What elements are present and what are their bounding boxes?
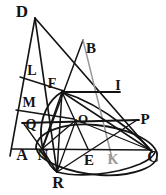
point-label-p: P (140, 112, 149, 127)
segment-B-to-K-ray (83, 40, 112, 158)
point-label-a: A (16, 147, 28, 163)
segment-D-A-left-side (10, 18, 35, 156)
point-label-n: N (38, 148, 49, 163)
point-label-m: M (22, 96, 35, 110)
segment-L-to-F (20, 77, 64, 91)
point-label-i: I (115, 79, 120, 93)
point-label-r: R (52, 175, 64, 191)
point-label-k: K (108, 153, 119, 167)
segment-A-to-C (12, 149, 152, 150)
point-label-l: L (27, 64, 36, 78)
geometry-figure: DBLFIMQOPANEKCR (0, 0, 166, 195)
point-label-b: B (86, 41, 96, 56)
segment-R-to-P (57, 120, 137, 172)
point-label-e: E (84, 153, 94, 168)
point-label-o: O (78, 112, 88, 125)
point-label-f: F (48, 77, 57, 91)
point-label-d: D (16, 3, 28, 20)
point-label-q: Q (26, 118, 37, 132)
point-label-c: C (147, 149, 159, 165)
curves-layer (36, 92, 157, 175)
